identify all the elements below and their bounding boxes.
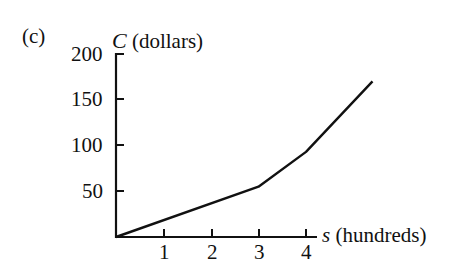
y-axis-unit: (dollars) <box>132 29 203 53</box>
x-axis-variable: s <box>322 223 330 247</box>
x-tick-label-1: 1 <box>159 242 170 263</box>
y-axis <box>116 53 124 238</box>
x-tick-label-4: 4 <box>301 242 312 263</box>
x-tick-label-3: 3 <box>254 242 265 263</box>
x-tick-label-2: 2 <box>207 242 218 263</box>
y-axis-title: C (dollars) <box>112 30 203 52</box>
y-axis-variable: C <box>112 28 127 53</box>
y-tick-label-50: 50 <box>82 181 103 202</box>
y-tick-label-150: 150 <box>71 89 103 110</box>
x-axis-unit: (hundreds) <box>335 223 426 247</box>
x-axis-title: s (hundreds) <box>322 225 426 246</box>
y-tick-label-200: 200 <box>71 44 103 65</box>
cost-line <box>116 81 373 237</box>
panel-label: (c) <box>22 26 45 47</box>
x-axis <box>115 229 317 237</box>
y-tick-label-100: 100 <box>71 135 103 156</box>
